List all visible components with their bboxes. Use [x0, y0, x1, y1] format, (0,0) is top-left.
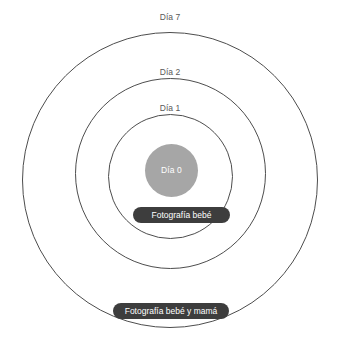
ring-label-day-2: Día 2: [110, 68, 230, 77]
ring-label-day-1: Día 1: [110, 104, 230, 113]
ring-label-day-7: Día 7: [110, 13, 230, 22]
callout-baby-and-mom-photo: Fotografía bebé y mamá: [113, 303, 229, 319]
concentric-timeline-diagram: Día 7 Día 2 Día 1 Día 0 Fotografía bebé …: [0, 0, 338, 337]
core-circle-day-0: Día 0: [145, 144, 198, 197]
callout-baby-photo: Fotografía bebé: [133, 207, 230, 223]
core-label-day-0: Día 0: [161, 166, 182, 175]
